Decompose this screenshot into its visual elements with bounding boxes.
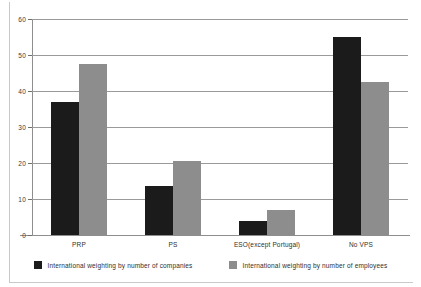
y-tick-label-50: 50 [18,52,26,59]
figure-frame-left-border [9,2,10,283]
legend-label-employees: International weighting by number of emp… [243,262,388,269]
y-tick-label-20: 20 [18,160,26,167]
x-axis-label-ps: PS [169,241,178,248]
y-tick-label-60: 60 [18,16,26,23]
legend-swatch-companies-icon [34,261,42,269]
legend-item-employees: International weighting by number of emp… [229,261,388,269]
y-tick-label-10: 10 [18,196,26,203]
bar-companies-eso-except-portugal- [239,221,267,235]
bar-companies-no-vps [333,37,361,235]
x-axis-label-prp: PRP [72,241,86,248]
figure-frame-bottom-border [9,282,413,283]
legend-swatch-employees-icon [229,261,237,269]
y-tick-label-30: 30 [18,124,26,131]
legend-label-companies: International weighting by number of com… [48,262,193,269]
bar-employees-ps [173,161,201,235]
chart-legend: International weighting by number of com… [0,261,421,269]
y-tick-label-40: 40 [18,88,26,95]
bar-employees-eso-except-portugal- [267,210,295,235]
bar-employees-prp [79,64,107,235]
legend-item-companies: International weighting by number of com… [34,261,193,269]
y-tick-mark-0 [28,235,32,236]
bar-employees-no-vps [361,82,389,235]
x-axis-label-no-vps: No VPS [349,241,373,248]
gridline-0 [32,235,408,236]
x-axis-label-eso-except-portugal-: ESO(except Portugal) [234,241,300,248]
bar-companies-ps [145,186,173,235]
bars-group [32,19,408,235]
y-tick-label-0: 0 [22,232,26,239]
bar-companies-prp [51,102,79,235]
bar-chart-figure: 0102030405060 PRPPSESO(except Portugal)N… [0,0,421,287]
plot-area: 0102030405060 [32,19,408,235]
